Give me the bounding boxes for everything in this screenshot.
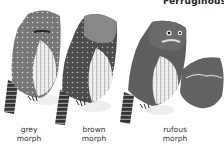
rufous-morph-label: rufous morph bbox=[155, 126, 195, 143]
field-guide-plate: Ferruginous Py bbox=[0, 0, 224, 155]
grey-morph-label: grey morph bbox=[9, 126, 49, 143]
brown-morph-label: brown morph bbox=[74, 126, 114, 143]
label-line: morph bbox=[9, 135, 49, 144]
label-line: morph bbox=[74, 135, 114, 144]
partial-owl-back-view-illustration bbox=[180, 57, 224, 108]
grey-morph-owl-illustration bbox=[4, 10, 61, 114]
label-line: morph bbox=[155, 135, 195, 144]
brown-morph-owl-illustration bbox=[55, 14, 117, 125]
rufous-morph-owl-illustration bbox=[120, 21, 186, 124]
